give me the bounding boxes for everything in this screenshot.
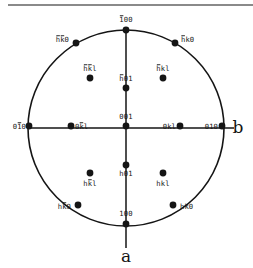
pole-marker: hk0 — [58, 202, 82, 211]
pole-dot — [160, 170, 167, 177]
pole-marker: hkl — [83, 170, 96, 188]
pole-dot — [68, 123, 75, 130]
pole-dot — [177, 123, 184, 130]
pole-dot — [87, 170, 94, 177]
pole-dot — [87, 75, 94, 82]
pole-group: 100hk0hk0hklhklh010010100kl0kl010h01hklh… — [13, 15, 226, 227]
pole-label: 0kl — [163, 122, 176, 131]
pole-label: hkl — [83, 179, 96, 188]
projection-canvas: 100hk0hk0hklhklh010010100kl0kl010h01hklh… — [0, 0, 253, 268]
pole-label: 100 — [119, 15, 132, 24]
pole-dot — [75, 202, 82, 209]
pole-label: hkl — [83, 64, 96, 73]
pole-label: hk0 — [180, 202, 193, 211]
pole-label: hkl — [156, 64, 169, 73]
pole-label: 0kl — [75, 122, 88, 131]
overbar — [18, 122, 22, 123]
pole-dot — [26, 123, 33, 130]
pole-marker: 001 — [119, 112, 132, 129]
overbar — [120, 74, 124, 75]
pole-label: hkl — [156, 179, 169, 188]
pole-marker: 0kl — [163, 122, 184, 131]
overbar — [88, 179, 92, 180]
pole-marker: hk0 — [56, 35, 80, 46]
pole-marker: hk0 — [170, 202, 194, 211]
overbar — [63, 202, 67, 203]
axis-label-a: a — [121, 246, 131, 266]
pole-marker: hkl — [156, 170, 169, 188]
pole-label: hk0 — [56, 35, 69, 44]
pole-marker: 010 — [205, 122, 226, 131]
pole-dot — [160, 75, 167, 82]
pole-label: h01 — [119, 169, 132, 178]
overbar — [181, 35, 185, 36]
pole-dot — [170, 202, 177, 209]
overbar — [120, 15, 124, 16]
pole-label: hk0 — [181, 35, 194, 44]
pole-dot — [73, 40, 80, 47]
stereographic-projection-figure: 100hk0hk0hklhklh010010100kl0kl010h01hklh… — [0, 0, 253, 268]
axis-label-b: b — [233, 117, 244, 137]
overbar — [157, 64, 161, 65]
pole-marker: hkl — [83, 64, 96, 81]
pole-dot — [123, 85, 130, 92]
pole-marker: hk0 — [172, 35, 195, 46]
pole-label: h01 — [119, 74, 132, 83]
overbar — [80, 122, 84, 123]
pole-dot — [123, 221, 130, 228]
overbar — [56, 35, 60, 36]
pole-label: 001 — [119, 112, 132, 121]
pole-label: 100 — [119, 209, 132, 218]
pole-marker: hkl — [156, 64, 169, 81]
pole-label: hk0 — [58, 202, 71, 211]
pole-dot — [123, 123, 130, 130]
pole-marker: h01 — [119, 162, 132, 178]
overbar — [84, 64, 88, 65]
pole-dot — [219, 123, 226, 130]
pole-marker: 0kl — [68, 122, 89, 131]
pole-label: 010 — [205, 122, 218, 131]
pole-dot — [123, 162, 130, 169]
pole-label: 010 — [13, 122, 26, 131]
pole-marker: h01 — [119, 74, 132, 91]
pole-marker: 010 — [13, 122, 33, 131]
overbar — [61, 35, 65, 36]
pole-dot — [123, 27, 130, 34]
pole-dot — [172, 40, 179, 47]
overbar — [88, 64, 92, 65]
